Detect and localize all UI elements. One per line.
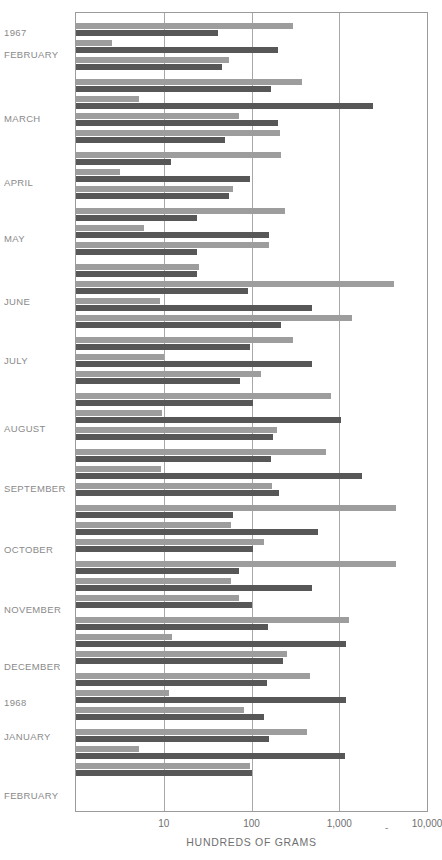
month-label-april-3: APRIL <box>4 178 33 188</box>
bar-dark-35 <box>76 680 267 686</box>
bar-dark-26 <box>76 512 233 518</box>
bar-light-2 <box>76 57 229 63</box>
bar-light-20 <box>76 393 331 399</box>
bar-dark-24 <box>76 473 362 479</box>
bar-light-24 <box>76 466 161 472</box>
bar-light-39 <box>76 746 139 752</box>
bar-light-1 <box>76 40 112 46</box>
month-label-september-8: SEPTEMBER <box>4 484 66 494</box>
bar-dark-0 <box>76 30 218 36</box>
bar-light-14 <box>76 281 394 287</box>
bar-light-18 <box>76 354 164 360</box>
bar-dark-15 <box>76 305 312 311</box>
month-label-august-7: AUGUST <box>4 424 46 434</box>
bar-group <box>76 13 427 811</box>
bar-dark-18 <box>76 361 312 367</box>
bar-light-23 <box>76 449 326 455</box>
bar-dark-28 <box>76 546 253 552</box>
bar-light-19 <box>76 371 261 377</box>
month-label-may-4: MAY <box>4 234 25 244</box>
bar-light-36 <box>76 690 169 696</box>
bar-light-28 <box>76 539 264 545</box>
month-label-march-2: MARCH <box>4 114 41 124</box>
bar-dark-25 <box>76 490 279 496</box>
month-label-january-13: JANUARY <box>4 732 51 742</box>
month-label-october-9: OCTOBER <box>4 545 53 555</box>
bar-dark-36 <box>76 697 346 703</box>
bar-light-17 <box>76 337 293 343</box>
bar-dark-11 <box>76 232 269 238</box>
bar-dark-40 <box>76 770 252 776</box>
bar-light-27 <box>76 522 231 528</box>
bar-dark-17 <box>76 344 250 350</box>
bar-dark-12 <box>76 249 197 255</box>
bar-light-12 <box>76 242 269 248</box>
x-tick-10: 10 <box>158 818 169 829</box>
bar-light-37 <box>76 707 244 713</box>
bar-dark-20 <box>76 400 253 406</box>
month-label-column: 1967FEBRUARYMARCHAPRILMAYJUNEJULYAUGUSTS… <box>0 0 75 860</box>
month-label-1968-12: 1968 <box>4 698 27 708</box>
bar-light-31 <box>76 595 239 601</box>
bar-light-11 <box>76 225 144 231</box>
bar-light-4 <box>76 96 139 102</box>
bar-light-15 <box>76 298 160 304</box>
bar-light-6 <box>76 130 280 136</box>
bar-light-26 <box>76 505 396 511</box>
bar-dark-34 <box>76 658 283 664</box>
bar-dark-21 <box>76 417 341 423</box>
bar-dark-8 <box>76 176 250 182</box>
bar-dark-33 <box>76 641 346 647</box>
bar-dark-9 <box>76 193 229 199</box>
bar-light-3 <box>76 79 302 85</box>
plot-area <box>75 12 428 812</box>
bar-light-29 <box>76 561 396 567</box>
month-label-june-5: JUNE <box>4 297 30 307</box>
bar-dark-2 <box>76 64 222 70</box>
bar-light-25 <box>76 483 272 489</box>
month-label-july-6: JULY <box>4 356 28 366</box>
bar-dark-27 <box>76 529 318 535</box>
bar-dark-23 <box>76 456 271 462</box>
bar-dark-32 <box>76 624 268 630</box>
bar-dark-37 <box>76 714 264 720</box>
month-label-february-1: FEBRUARY <box>4 50 58 60</box>
bar-light-35 <box>76 673 310 679</box>
x-axis-title: HUNDREDS OF GRAMS <box>75 836 428 848</box>
bar-dark-13 <box>76 271 197 277</box>
bar-light-5 <box>76 113 239 119</box>
month-label-december-11: DECEMBER <box>4 662 61 672</box>
bar-dark-6 <box>76 137 225 143</box>
month-label-february-14: FEBRUARY <box>4 791 58 801</box>
bar-light-8 <box>76 169 120 175</box>
bar-dark-39 <box>76 753 345 759</box>
bar-dark-38 <box>76 736 269 742</box>
bar-light-30 <box>76 578 231 584</box>
bar-dark-1 <box>76 47 278 53</box>
bar-light-10 <box>76 208 285 214</box>
bar-light-21 <box>76 410 162 416</box>
bar-dark-16 <box>76 322 281 328</box>
bar-dark-10 <box>76 215 197 221</box>
bar-dark-14 <box>76 288 248 294</box>
bar-dark-30 <box>76 585 312 591</box>
bar-light-13 <box>76 264 199 270</box>
month-label-november-10: NOVEMBER <box>4 605 61 615</box>
bar-light-38 <box>76 729 307 735</box>
axis-dash: - <box>385 822 388 833</box>
x-tick-10000: 10,000 <box>412 818 442 829</box>
bar-light-22 <box>76 427 277 433</box>
bar-dark-31 <box>76 602 252 608</box>
bar-light-32 <box>76 617 349 623</box>
x-tick-1000: 1,000 <box>327 818 352 829</box>
bar-light-16 <box>76 315 352 321</box>
bar-light-7 <box>76 152 281 158</box>
x-tick-100: 100 <box>243 818 260 829</box>
bar-dark-5 <box>76 120 278 126</box>
bar-light-34 <box>76 651 287 657</box>
bar-dark-19 <box>76 378 240 384</box>
bar-dark-22 <box>76 434 273 440</box>
bar-light-0 <box>76 23 293 29</box>
bar-dark-4 <box>76 103 373 109</box>
